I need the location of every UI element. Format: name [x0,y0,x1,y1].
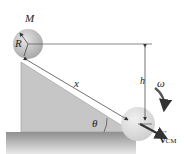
angle-label: θ [92,118,97,129]
omega-label: ω [157,78,165,89]
distance-label: x [74,78,79,89]
incline-wedge [21,62,132,132]
mass-label: M [25,13,34,24]
vector-arrow-icon: → [161,128,168,135]
velocity-subscript: CM [166,137,177,145]
radius-label: R [15,38,22,49]
angular-velocity-icon [155,88,164,110]
ground [6,132,136,154]
velocity-label: vCM [160,134,176,145]
height-label: h [140,76,145,86]
